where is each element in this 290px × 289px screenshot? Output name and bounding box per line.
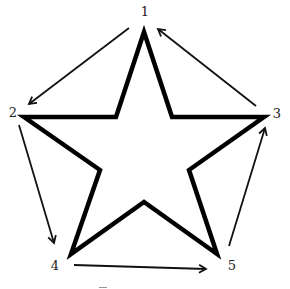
arrow-2-to-4 [19, 125, 54, 243]
node-label-2: 2 [9, 105, 17, 120]
star-diagram: 1 2 3 4 5 [0, 0, 290, 289]
arrow-1-to-2 [29, 28, 129, 104]
node-label-4: 4 [51, 258, 59, 273]
node-label-3: 3 [273, 106, 281, 121]
caption-fragment [99, 287, 107, 288]
star-outline [24, 32, 264, 254]
node-label-5: 5 [228, 258, 236, 273]
arrow-5-to-3 [229, 128, 265, 246]
node-label-1: 1 [141, 4, 149, 19]
arrow-3-to-1 [158, 29, 256, 106]
arrow-4-to-5 [74, 265, 206, 269]
